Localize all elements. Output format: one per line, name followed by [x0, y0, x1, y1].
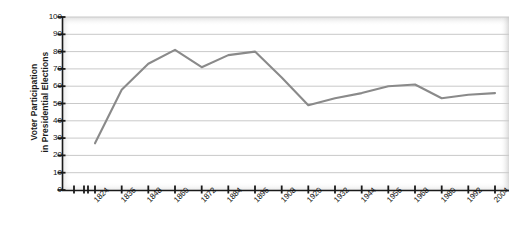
x-tick-label-group: 1824183618481860187218841896190819201932… — [0, 0, 525, 250]
voter-participation-line-chart: Voter Participation in Presidential Elec… — [0, 0, 525, 250]
x-tick-label: 1980 — [439, 186, 458, 205]
x-tick-label: 2004 — [492, 186, 511, 205]
x-tick-label: 1872 — [199, 186, 218, 205]
x-tick-label: 1824 — [92, 186, 111, 205]
x-tick-label: 1884 — [225, 186, 244, 205]
x-tick-label: 1896 — [252, 186, 271, 205]
x-tick-label: 1956 — [385, 186, 404, 205]
x-tick-label: 1944 — [359, 186, 378, 205]
x-tick-label: 1836 — [119, 186, 138, 205]
x-tick-label: 1968 — [412, 186, 431, 205]
x-tick-label: 1932 — [332, 186, 351, 205]
x-tick-label: 1908 — [279, 186, 298, 205]
x-tick-label: 1848 — [145, 186, 164, 205]
x-tick-label: 1860 — [172, 186, 191, 205]
x-tick-label: 1920 — [305, 186, 324, 205]
x-tick-label: 1992 — [465, 186, 484, 205]
